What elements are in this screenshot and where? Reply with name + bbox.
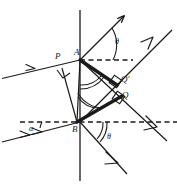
wavefront-A-to-Qprime [80,60,117,85]
incident-ray-upper [2,60,80,79]
label-point-a: A [74,48,80,57]
transmitted-ray-from-A-arrowhead [144,116,157,130]
angle-arc-theta-bottom [97,122,103,139]
label-angle-theta-bottom: θ [107,133,111,141]
incident-ray-upper-arrowhead [26,65,35,71]
label-angle-theta-top: θ [115,38,119,46]
ray-diagram-figure: P A B Q' Q θ θ α [0,0,177,191]
segment-P-to-B [62,68,77,122]
label-angle-alpha: α [29,125,33,133]
transmitted-ray-from-A [80,60,167,141]
angle-arc-alpha [40,122,42,128]
label-point-b: B [72,125,78,134]
transmitted-ray-from-B [80,122,127,174]
ray-diagram-canvas [0,0,177,191]
label-point-q-prime: Q' [121,75,129,84]
incident-ray-lower-arrowhead-2 [32,128,42,135]
emergent-ray-right-arrowhead [141,37,153,49]
label-point-p: P [55,52,61,61]
label-point-q: Q [122,91,129,100]
angle-arc-at-B-interior-2 [78,93,103,108]
